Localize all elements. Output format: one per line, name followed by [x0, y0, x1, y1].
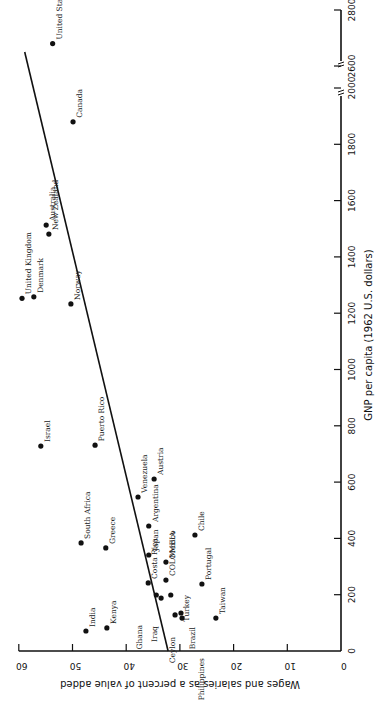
point-label: United States	[55, 0, 64, 40]
axis-titles: GNP per capita (1962 U.S. dollars) Wages…	[60, 249, 374, 690]
gnp-tick-label: 200	[347, 586, 357, 603]
point-label: Brazil	[188, 626, 197, 649]
point-label: Chile	[197, 511, 206, 531]
point-marker	[83, 628, 88, 633]
data-point: Costa Rica	[146, 538, 160, 586]
point-label: Norway	[73, 269, 82, 300]
data-point: South Africa	[78, 491, 92, 546]
data-point: Greece	[103, 516, 117, 550]
point-marker	[146, 580, 151, 585]
point-marker	[70, 119, 75, 124]
point-marker	[44, 222, 49, 227]
chart-axes: 0200400600800100012001400160018002000260…	[16, 0, 357, 671]
point-marker	[213, 615, 218, 620]
gnp-tick-label: 1200	[347, 301, 357, 324]
wage-tick-label: 40	[123, 661, 135, 671]
point-label: Israel	[43, 420, 52, 442]
point-marker	[159, 595, 164, 600]
point-marker	[172, 612, 177, 617]
gnp-tick-label: 1400	[347, 245, 357, 268]
data-point: Ceylon	[168, 612, 178, 663]
gnp-tick-label: 1600	[347, 189, 357, 212]
point-label: Argentina	[151, 484, 160, 523]
data-point: Chile	[192, 511, 206, 538]
point-label: South Africa	[83, 491, 92, 539]
data-point: Taiwan	[213, 587, 227, 621]
point-marker	[192, 532, 197, 537]
gnp-tick-label: 1800	[347, 133, 357, 156]
point-label: Portugal	[204, 547, 213, 580]
point-label: New Zealand	[51, 179, 60, 230]
gnp-tick-label: 0	[347, 648, 357, 654]
point-marker	[199, 581, 204, 586]
data-point: United Kingdom	[19, 232, 33, 301]
gnp-tick-label: 2600	[347, 54, 357, 77]
point-label: Greece	[108, 516, 117, 544]
wage-tick-label: 60	[16, 661, 28, 671]
scatter-chart: 0200400600800100012001400160018002000260…	[0, 0, 383, 706]
point-marker	[92, 443, 97, 448]
point-marker	[152, 476, 157, 481]
point-label: Taiwan	[218, 587, 227, 614]
point-label: Austria	[156, 447, 165, 476]
wage-tick-label: 50	[70, 661, 82, 671]
point-label: Kenya	[109, 600, 118, 624]
gnp-tick-label: 400	[347, 530, 357, 547]
data-point: Portugal	[199, 547, 213, 587]
data-point: Venezuela	[135, 454, 149, 500]
point-label: Iraq	[150, 626, 159, 642]
data-point: Turkey	[168, 592, 191, 621]
point-marker	[146, 523, 151, 528]
point-marker	[178, 610, 183, 615]
data-point: COLOMBIA	[163, 531, 177, 583]
point-marker	[103, 545, 108, 550]
point-marker	[179, 615, 184, 620]
data-point: Israel	[38, 420, 52, 449]
data-point: Austria	[152, 447, 166, 482]
wage-tick-label: 20	[231, 661, 243, 671]
data-point: United States	[50, 0, 64, 46]
point-marker	[46, 231, 51, 236]
point-label: Denmark	[36, 257, 45, 292]
data-point: Norway	[68, 269, 82, 306]
point-label: India	[88, 607, 97, 627]
point-marker	[104, 625, 109, 630]
wage-tick-label: 10	[284, 661, 296, 671]
gnp-tick-label: 800	[347, 417, 357, 434]
point-label: Venezuela	[140, 454, 149, 494]
gnp-tick-label: 2000	[347, 76, 357, 99]
point-marker	[168, 592, 173, 597]
point-label: Ghana	[135, 624, 144, 649]
gnp-tick-label: 2800	[347, 0, 357, 21]
point-label: Ceylon	[168, 637, 177, 663]
data-points: United StatesCanadaAustraliaNew ZealandU…	[19, 0, 226, 700]
point-marker	[154, 592, 159, 597]
gnp-axis-title: GNP per capita (1962 U.S. dollars)	[363, 249, 374, 420]
point-marker	[135, 494, 140, 499]
point-marker	[19, 296, 24, 301]
wage-tick-label: 30	[177, 661, 189, 671]
regression-line	[25, 52, 168, 651]
data-point: Denmark	[31, 257, 45, 299]
point-marker	[31, 294, 36, 299]
point-label: COLOMBIA	[168, 531, 177, 576]
wage-axis-title: Wages and salaries as a percent of value…	[60, 679, 300, 690]
point-marker	[50, 41, 55, 46]
point-marker	[68, 301, 73, 306]
gnp-tick-label: 600	[347, 473, 357, 490]
axis-break-icon	[338, 62, 344, 95]
data-point: Canada	[70, 88, 84, 124]
data-point: Puerto Rico	[92, 396, 106, 448]
point-label: Costa Rica	[150, 538, 159, 579]
point-label: Canada	[75, 88, 84, 117]
data-point: India	[83, 607, 97, 634]
wage-tick-label: 0	[341, 661, 347, 671]
point-label: United Kingdom	[24, 232, 33, 294]
point-marker	[163, 577, 168, 582]
point-marker	[78, 540, 83, 545]
point-marker	[38, 443, 43, 448]
gnp-tick-label: 1000	[347, 358, 357, 381]
point-label: Puerto Rico	[97, 396, 106, 441]
data-point: Kenya	[104, 600, 118, 631]
